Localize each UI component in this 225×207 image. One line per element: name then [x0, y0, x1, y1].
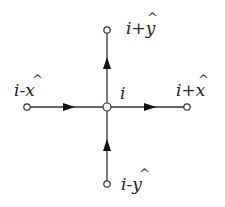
- hat-right: ^: [198, 72, 209, 87]
- hat-bottom: ^: [139, 166, 150, 181]
- node-right: [184, 104, 190, 110]
- diagram-svg: i i+y ^ i-y ^ i-x ^ i+x ^: [0, 0, 225, 207]
- arrow-right-icon: [63, 103, 75, 111]
- hat-left: ^: [32, 72, 43, 87]
- hat-top: ^: [147, 10, 158, 25]
- node-center: [103, 103, 111, 111]
- label-center: i: [120, 83, 125, 103]
- node-bottom: [104, 181, 110, 187]
- arrow-right-icon: [144, 103, 156, 111]
- arrow-up-icon: [103, 57, 111, 69]
- arrow-up-icon: [103, 139, 111, 151]
- node-top: [104, 27, 110, 33]
- lattice-diagram: i i+y ^ i-y ^ i-x ^ i+x ^: [0, 0, 225, 207]
- node-left: [24, 104, 30, 110]
